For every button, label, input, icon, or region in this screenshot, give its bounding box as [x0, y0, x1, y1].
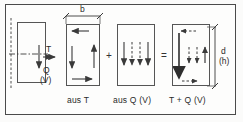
- force-label-T: T: [46, 45, 51, 54]
- panel-aus-t-caption: aus T: [67, 96, 89, 105]
- panel-aus-t-rect: [66, 24, 100, 86]
- force-label-Q: Q: [43, 66, 50, 75]
- force-label-Q-alt: (V): [40, 76, 51, 85]
- panel-aus-q-caption: aus Q (V): [113, 96, 151, 105]
- dimension-label-d-alt: (h): [219, 57, 229, 66]
- diagram-root: b d (h) T Q (V) + = aus T aus Q (V) T + …: [0, 0, 243, 122]
- operator-equals: =: [161, 51, 167, 61]
- dimension-label-b: b: [80, 5, 85, 14]
- operator-plus: +: [106, 51, 112, 61]
- panel-aus-q-rect: [117, 24, 155, 86]
- panel-sum-rect: [172, 24, 210, 86]
- panel-sum-caption: T + Q (V): [169, 96, 206, 105]
- dimension-label-d: d: [221, 47, 226, 56]
